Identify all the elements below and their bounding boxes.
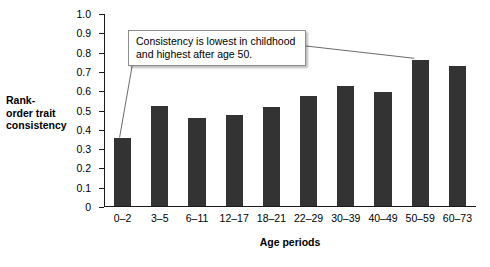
- x-axis-tick-label: 50–59: [406, 212, 435, 224]
- y-axis-tick-label: 0.7: [76, 66, 91, 78]
- y-axis-tick: 1.0: [99, 14, 104, 15]
- y-axis-title: Rank- order trait consistency: [6, 94, 80, 132]
- annotation-line-2: and highest after age 50.: [136, 48, 299, 61]
- x-axis-title: Age periods: [104, 236, 476, 248]
- bar: [300, 96, 317, 206]
- y-axis-tick: 0.3: [99, 149, 104, 150]
- y-axis-tick-label: 0.2: [76, 162, 91, 174]
- chart-figure: Rank- order trait consistency 1.00.90.80…: [0, 0, 490, 267]
- y-axis-tick: 0.5: [99, 111, 104, 112]
- annotation-callout: Consistency is lowest in childhood and h…: [128, 30, 306, 66]
- x-axis-tick-label: 60–73: [443, 212, 472, 224]
- y-axis-tick: 0.6: [99, 91, 104, 92]
- bar: [114, 138, 131, 206]
- x-axis-tick-label: 12–17: [220, 212, 249, 224]
- bar: [188, 118, 205, 206]
- x-axis-tick-label: 3–5: [151, 212, 169, 224]
- y-axis-tick: 0.7: [99, 72, 104, 73]
- y-axis-tick: 0.9: [99, 33, 104, 34]
- y-axis-tick-label: 0.8: [76, 47, 91, 59]
- y-axis-tick: 0.2: [99, 168, 104, 169]
- x-axis-line: [104, 206, 476, 207]
- x-axis-tick-label: 18–21: [257, 212, 286, 224]
- y-axis-tick-label: 0.9: [76, 27, 91, 39]
- bar: [151, 106, 168, 206]
- y-axis-tick-label: 0.3: [76, 143, 91, 155]
- y-axis-tick-label: 0.1: [76, 182, 91, 194]
- y-axis-tick: 0.4: [99, 130, 104, 131]
- y-axis-tick-label: 0.5: [76, 105, 91, 117]
- y-axis-tick: 0.8: [99, 53, 104, 54]
- y-axis-tick-label: 0.4: [76, 124, 91, 136]
- x-axis-tick-label: 22–29: [294, 212, 323, 224]
- x-axis-tick-label: 30–39: [331, 212, 360, 224]
- y-axis-tick-label: 0.6: [76, 85, 91, 97]
- bar: [263, 107, 280, 206]
- x-axis-tick-label: 40–49: [368, 212, 397, 224]
- bar: [412, 60, 429, 206]
- y-axis-tick-label: 0: [85, 201, 91, 213]
- bar: [337, 86, 354, 206]
- bar: [226, 115, 243, 206]
- y-axis-tick: 0: [99, 207, 104, 208]
- y-axis-tick: 0.1: [99, 188, 104, 189]
- y-axis-tick-label: 1.0: [76, 8, 91, 20]
- annotation-line-1: Consistency is lowest in childhood: [136, 35, 299, 48]
- bar: [374, 92, 391, 206]
- x-axis-tick-label: 0–2: [114, 212, 132, 224]
- y-axis-line: [104, 14, 105, 207]
- bar: [449, 66, 466, 206]
- x-axis-tick-label: 6–11: [186, 212, 209, 224]
